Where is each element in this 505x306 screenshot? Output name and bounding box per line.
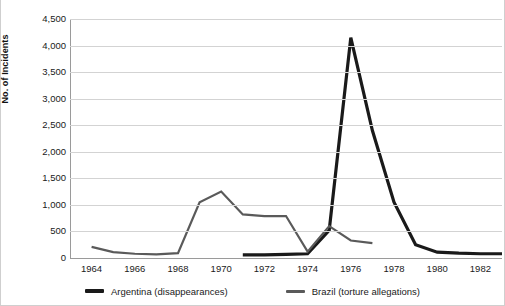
gridline-1500 bbox=[70, 178, 502, 179]
x-tick-label: 1982 bbox=[460, 263, 500, 274]
gridline-3500 bbox=[70, 72, 502, 73]
chart-legend: Argentina (disappearances)Brazil (tortur… bbox=[0, 281, 505, 301]
gridline-4000 bbox=[70, 46, 502, 47]
legend-swatch-icon bbox=[286, 290, 305, 293]
legend-item: Brazil (torture allegations) bbox=[286, 286, 420, 297]
x-tick-label: 1978 bbox=[374, 263, 414, 274]
gridline-500 bbox=[70, 231, 502, 232]
gridline-4500 bbox=[70, 19, 502, 20]
legend-label: Argentina (disappearances) bbox=[111, 286, 228, 297]
line-chart: No. of Incidents 4,5004,0003,5003,0002,5… bbox=[0, 0, 505, 306]
gridline-3000 bbox=[70, 99, 502, 100]
x-tick-label: 1970 bbox=[201, 263, 241, 274]
legend-label: Brazil (torture allegations) bbox=[312, 286, 420, 297]
x-tick-label: 1976 bbox=[331, 263, 371, 274]
x-tick-label: 1972 bbox=[244, 263, 284, 274]
y-tick-label: 500 bbox=[2, 226, 66, 236]
x-tick-label: 1974 bbox=[288, 263, 328, 274]
gridline-0 bbox=[70, 258, 502, 259]
series-layer bbox=[70, 19, 502, 258]
y-tick-label: 1,500 bbox=[2, 173, 66, 183]
legend-item: Argentina (disappearances) bbox=[85, 286, 228, 297]
legend-swatch-icon bbox=[85, 289, 104, 293]
series-line bbox=[243, 38, 502, 255]
x-tick-label: 1980 bbox=[417, 263, 457, 274]
y-tick-label: 3,000 bbox=[2, 94, 66, 104]
gridline-2000 bbox=[70, 152, 502, 153]
y-tick-label: 1,000 bbox=[2, 200, 66, 210]
y-tick-label: 2,500 bbox=[2, 120, 66, 130]
y-tick-label: 4,500 bbox=[2, 14, 66, 24]
y-tick-label: 0 bbox=[2, 253, 66, 263]
x-tick-label: 1966 bbox=[115, 263, 155, 274]
gridline-2500 bbox=[70, 125, 502, 126]
plot-area bbox=[70, 19, 502, 258]
y-axis-tick-labels: 4,5004,0003,5003,0002,5002,0001,5001,000… bbox=[0, 19, 66, 259]
y-tick-label: 4,000 bbox=[2, 41, 66, 51]
x-tick-label: 1964 bbox=[72, 263, 112, 274]
x-axis-tick-labels: 1964196619681970197219741976197819801982 bbox=[70, 263, 502, 277]
gridline-1000 bbox=[70, 205, 502, 206]
x-tick-label: 1968 bbox=[158, 263, 198, 274]
y-tick-label: 3,500 bbox=[2, 67, 66, 77]
y-tick-label: 2,000 bbox=[2, 147, 66, 157]
